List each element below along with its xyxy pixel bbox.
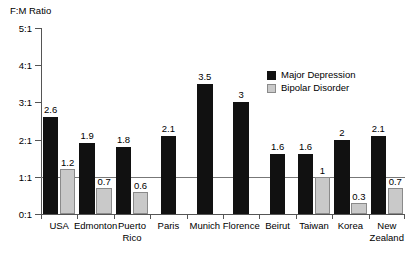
x-tick-mark [114, 214, 115, 219]
y-axis-title: F:M Ratio [10, 5, 51, 16]
bar-value-label: 2.6 [44, 104, 57, 115]
legend-item: Major Depression [267, 69, 355, 81]
legend-label: Bipolar Disorder [281, 82, 349, 94]
bar-value-label: 1 [320, 165, 325, 176]
bar-value-label: 1.2 [61, 157, 74, 168]
x-tick-mark [369, 214, 370, 219]
bar-major-depression: 2.1 [161, 136, 177, 214]
legend-swatch-icon [267, 84, 276, 93]
bar-major-depression: 2 [334, 140, 350, 214]
legend-label: Major Depression [281, 69, 355, 81]
bar-major-depression: 2.6 [43, 117, 59, 214]
y-tick-mark [35, 65, 41, 66]
bar-group: 1.6 [270, 28, 286, 214]
bar-bipolar-disorder: 0.7 [96, 188, 112, 214]
bar-value-label: 3 [239, 89, 244, 100]
y-tick-label: 2:1 [19, 134, 32, 145]
y-tick-label: 4:1 [19, 60, 32, 71]
y-tick-label: 3:1 [19, 97, 32, 108]
y-tick-label: 1:1 [19, 171, 32, 182]
bar-major-depression: 1.9 [79, 143, 95, 214]
y-axis-line [41, 28, 42, 214]
bar-value-label: 0.3 [352, 191, 365, 202]
x-tick-mark [223, 214, 224, 219]
x-tick-mark [187, 214, 188, 219]
bar-value-label: 0.7 [97, 176, 110, 187]
legend-item: Bipolar Disorder [267, 82, 355, 94]
x-tick-mark [77, 214, 78, 219]
category-label: New Zealand [363, 220, 411, 243]
bar-chart: F:M Ratio 0:11:12:13:14:15:1 2.61.21.90.… [0, 0, 414, 258]
bar-value-label: 0.7 [389, 176, 402, 187]
plot-area: 0:11:12:13:14:15:1 2.61.21.90.71.80.62.1… [41, 28, 405, 214]
bar-value-label: 1.6 [271, 141, 284, 152]
bar-major-depression: 1.6 [270, 154, 286, 214]
bar-group: 20.3 [334, 28, 367, 214]
bar-bipolar-disorder: 0.6 [133, 192, 149, 214]
bar-value-label: 0.6 [134, 180, 147, 191]
x-tick-mark [41, 214, 42, 219]
bar-group: 1.90.7 [79, 28, 112, 214]
chart-legend: Major DepressionBipolar Disorder [267, 69, 355, 95]
y-tick-label: 5:1 [19, 23, 32, 34]
x-tick-mark [404, 214, 405, 219]
bar-group: 2.1 [161, 28, 177, 214]
bar-value-label: 2 [339, 127, 344, 138]
x-tick-mark [296, 214, 297, 219]
bar-value-label: 1.8 [117, 134, 130, 145]
legend-swatch-icon [267, 71, 276, 80]
bar-bipolar-disorder: 1 [315, 177, 331, 214]
bar-group: 2.61.2 [43, 28, 76, 214]
bar-group: 3 [233, 28, 249, 214]
y-tick-label: 0:1 [19, 209, 32, 220]
y-tick-mark [35, 28, 41, 29]
bar-major-depression: 3.5 [197, 84, 213, 214]
bar-major-depression: 3 [233, 102, 249, 214]
bar-value-label: 2.1 [372, 123, 385, 134]
x-tick-mark [150, 214, 151, 219]
bar-bipolar-disorder: 1.2 [60, 169, 76, 214]
bar-major-depression: 1.8 [116, 147, 132, 214]
bar-bipolar-disorder: 0.3 [351, 203, 367, 214]
bar-group: 1.61 [298, 28, 331, 214]
x-tick-mark [332, 214, 333, 219]
bar-group: 3.5 [197, 28, 213, 214]
bar-group: 1.80.6 [116, 28, 149, 214]
y-tick-mark [35, 140, 41, 141]
y-tick-mark [35, 102, 41, 103]
bar-value-label: 1.6 [299, 141, 312, 152]
bar-value-label: 3.5 [198, 71, 211, 82]
x-tick-mark [259, 214, 260, 219]
bar-major-depression: 2.1 [371, 136, 387, 214]
bar-bipolar-disorder: 0.7 [388, 188, 404, 214]
bar-group: 2.10.7 [371, 28, 404, 214]
bar-value-label: 1.9 [80, 130, 93, 141]
bar-major-depression: 1.6 [298, 154, 314, 214]
bar-value-label: 2.1 [162, 123, 175, 134]
